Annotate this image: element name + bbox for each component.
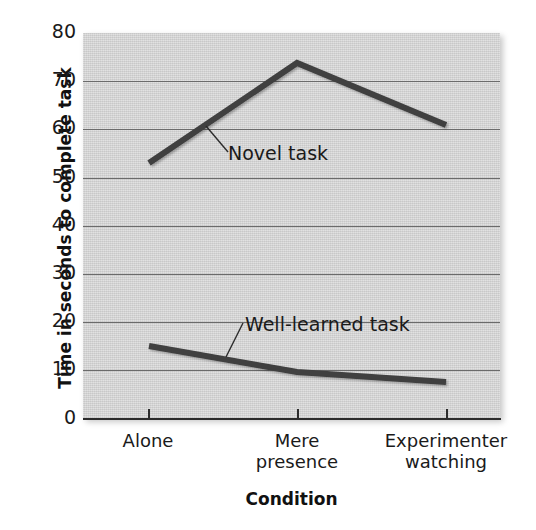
x-tick-label-line2: presence [237,451,357,472]
x-tick-label-line1: Experimenter [385,430,507,451]
y-tick-label: 30 [36,263,76,282]
gridline-70 [83,81,500,82]
gridline-30 [83,274,500,275]
y-tick-label: 70 [36,70,76,89]
x-tick-mark-mere-presence [297,409,299,419]
x-tick-label-alone: Alone [88,430,208,451]
series-annotation-novel-task: Novel task [228,142,328,164]
y-tick-label: 50 [36,167,76,186]
y-tick-label: 80 [36,22,76,41]
y-tick-label: 60 [36,118,76,137]
x-tick-label-line1: Mere [275,430,320,451]
y-tick-label: 20 [36,311,76,330]
y-axis-tick-labels: 80 70 60 50 40 30 20 10 0 [30,0,76,530]
y-tick-label: 40 [36,215,76,234]
x-axis-line [83,418,501,420]
plot-area [83,33,500,419]
gridline-60 [83,129,500,130]
x-tick-label-line2: watching [366,451,526,472]
x-tick-label-line1: Alone [123,430,174,451]
x-tick-mark-experimenter-watching [446,409,448,419]
y-tick-label: 10 [36,359,76,378]
x-tick-mark-alone [148,409,150,419]
gridline-10 [83,370,500,371]
line-chart: Time in seconds to complete task 80 70 6… [0,0,536,530]
gridline-40 [83,226,500,227]
y-tick-label: 0 [36,408,76,427]
x-tick-label-mere-presence: Mere presence [237,430,357,472]
x-tick-label-experimenter-watching: Experimenter watching [366,430,526,472]
gridline-50 [83,178,500,179]
series-annotation-well-learned-task: Well-learned task [245,313,410,335]
x-axis-title: Condition [83,489,500,509]
